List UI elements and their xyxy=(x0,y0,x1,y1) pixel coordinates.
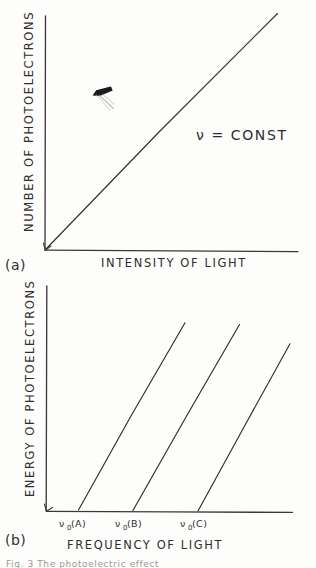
panel-a-x-axis xyxy=(45,250,298,251)
panel-a: ν = CONST NUMBER OF PHOTOELECTRONS INTEN… xyxy=(5,11,298,273)
panel-a-y-axis-label: NUMBER OF PHOTOELECTRONS xyxy=(22,11,36,232)
panel-b-y-axis-label: ENERGY OF PHOTOELECTRONS xyxy=(23,279,37,497)
panel-a-annotation: ν = CONST xyxy=(196,127,288,143)
panel-b-x-axis-label: FREQUENCY OF LIGHT xyxy=(67,538,223,552)
panel-b-tick-c: ν 0 (C) xyxy=(180,518,207,532)
figure-canvas: ν = CONST NUMBER OF PHOTOELECTRONS INTEN… xyxy=(0,0,316,568)
figure-caption-sliver: Fig. 3 The photoelectric effect xyxy=(6,559,159,568)
panel-b-y-axis xyxy=(46,286,47,511)
panel-b-label: (b) xyxy=(5,532,26,548)
panel-a-x-axis-label: INTENSITY OF LIGHT xyxy=(101,256,247,270)
panel-a-label: (a) xyxy=(5,257,26,273)
panel-b-data-line-a xyxy=(79,323,186,510)
panel-b-data-line-c xyxy=(198,344,290,511)
panel-b-tick-a-paren: (A) xyxy=(71,518,86,529)
panel-a-y-axis xyxy=(45,16,46,250)
ink-smudge-artifact xyxy=(93,87,115,110)
panel-b-tick-c-symbol: ν xyxy=(180,518,186,529)
panel-b-tick-b-paren: (B) xyxy=(127,518,142,529)
panel-b-tick-a: ν 0 (A) xyxy=(59,518,86,532)
panel-b: ν 0 (A) ν 0 (B) ν 0 (C) ENERGY OF PHOTOE… xyxy=(5,279,293,552)
panel-b-tick-b-symbol: ν xyxy=(115,518,121,529)
panel-b-tick-c-paren: (C) xyxy=(192,518,207,529)
panel-b-tick-b: ν 0 (B) xyxy=(115,518,142,532)
panel-b-x-axis xyxy=(46,511,292,512)
panel-b-data-line-b xyxy=(133,325,240,511)
photoelectric-effect-figure: ν = CONST NUMBER OF PHOTOELECTRONS INTEN… xyxy=(0,0,316,568)
panel-b-tick-a-symbol: ν xyxy=(59,518,65,529)
